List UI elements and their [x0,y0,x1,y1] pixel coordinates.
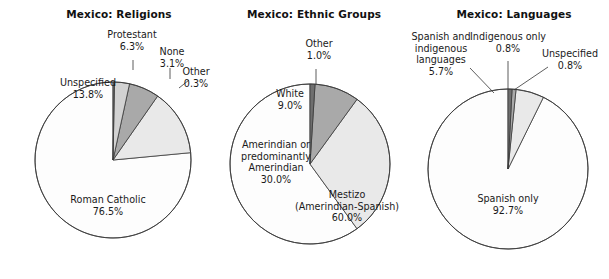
slice-label-line: 13.8% [73,89,103,100]
slice-label-line: Other [305,38,332,49]
slice-label-line: 92.7% [493,205,523,216]
slice-label-line: Spanish only [477,193,539,204]
slice-label-line: Unspecified [542,48,598,59]
slice-label-line: 60.0% [332,212,362,223]
slice-label: White9.0% [276,88,304,111]
slice-label: None3.1% [159,46,184,69]
slice-label-line: languages [416,54,466,65]
charts-layer: Roman Catholic 76.5%Unspecified 13.8%Pro… [35,8,598,249]
chart-title: Mexico: Religions [66,8,171,20]
slice-label-line: Indigenous only [470,31,546,42]
slice-label-line: predominantly [241,151,311,162]
slice-label-line: 76.5% [93,206,123,217]
slice-label-line: 0.3% [184,78,208,89]
slice-label-line: Other [182,66,209,77]
slice-label-line: White [276,88,304,99]
slice-label-line: Amerindian or [242,139,310,150]
slice-label-line: 9.0% [278,100,302,111]
slice-label-line: (Amerindian-Spanish) [295,201,399,212]
slice-label-line: 6.3% [120,41,144,52]
chart-title: Mexico: Languages [456,8,571,20]
slice-label-line: 0.8% [558,60,582,71]
slice-label-line: 5.7% [429,66,453,77]
slice-label-line: Protestant [107,29,157,40]
slice-label-line: 1.0% [307,50,331,61]
slice-label-line: 3.1% [160,58,184,69]
slice-label-line: Roman Catholic [70,194,145,205]
slice-label: Other1.0% [305,38,332,61]
slice-label-line: None [159,46,184,57]
slice-label-line: 30.0% [261,174,291,185]
slice-label-line: Spanish and [412,31,471,42]
pie-chart-figure: Roman Catholic 76.5%Unspecified 13.8%Pro… [0,0,609,279]
slice-label-line: Mestizo [329,189,366,200]
slice-label-line: Amerindian [248,162,303,173]
slice-label: Other0.3% [182,66,209,89]
slice-label-line: 0.8% [496,43,520,54]
slice-label-line: Unspecified [60,77,116,88]
chart-title: Mexico: Ethnic Groups [247,8,381,20]
slice-label-line: indigenous [415,43,468,54]
